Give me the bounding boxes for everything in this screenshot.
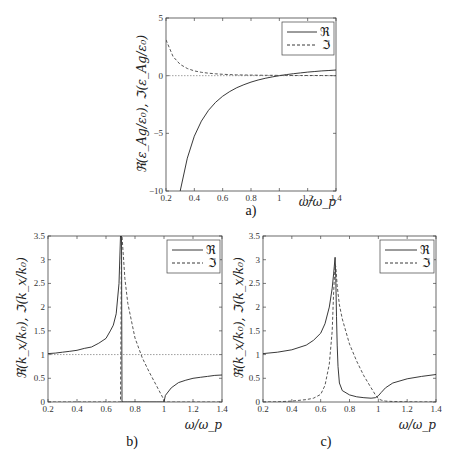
x-tick-label: 0.4 [189, 193, 201, 203]
legend-label: ℜ [420, 243, 430, 257]
x-tick-label: 1.2 [187, 404, 198, 414]
y-tick-label: 0.5 [34, 373, 46, 383]
y-tick-label: 5 [159, 13, 164, 23]
x-tick-label: 0.4 [71, 404, 83, 414]
x-tick-label: 0.6 [217, 193, 229, 203]
series-imag [263, 265, 436, 403]
x-tick-label: 1.4 [216, 404, 228, 414]
panel-a-xlabel: ω/ω_p [299, 195, 337, 209]
x-tick-label: 0.8 [245, 193, 257, 203]
y-tick-label: 2.5 [249, 278, 261, 288]
legend: ℜℑ [167, 240, 220, 273]
y-tick-label: 0 [159, 71, 164, 81]
panel-a-epsilon-plot: 0.20.40.60.811.21.4−10−505ℜℑ [149, 13, 342, 203]
panel-c-ylabel: ℜ(k_x/k₀), ℑ(k_x/k₀) [231, 257, 246, 379]
x-tick-label: 0.6 [100, 404, 112, 414]
x-tick-label: 1 [162, 404, 167, 414]
y-tick-label: 1 [41, 350, 46, 360]
panel-b-xlabel: ω/ω_p [185, 418, 223, 432]
legend-label: ℜ [206, 243, 216, 257]
panel-a-ylabel: ℜ(ε_Ag/ε₀), ℑ(ε_Ag/ε₀) [134, 35, 149, 173]
y-tick-label: −10 [149, 186, 164, 196]
x-tick-label: 0.8 [344, 404, 356, 414]
legend-label: ℑ [422, 256, 430, 270]
y-tick-label: −5 [153, 128, 163, 138]
x-tick-label: 1 [376, 404, 381, 414]
series-real [180, 70, 336, 191]
panel-b-caption: b) [126, 434, 138, 450]
x-tick-label: 1.2 [402, 404, 413, 414]
legend-label: ℑ [208, 256, 216, 270]
y-tick-label: 3 [256, 255, 261, 265]
panel-a-caption: a) [246, 203, 257, 219]
y-tick-label: 1.5 [34, 326, 46, 336]
y-tick-label: 0 [41, 397, 46, 407]
y-tick-label: 2 [256, 302, 261, 312]
legend: ℜℑ [282, 22, 334, 55]
series-real [263, 257, 436, 398]
y-tick-label: 1.5 [249, 326, 261, 336]
x-tick-label: 1 [277, 193, 282, 203]
x-tick-label: 1.4 [430, 404, 442, 414]
y-tick-label: 3.5 [249, 231, 261, 241]
x-tick-label: 0.8 [129, 404, 141, 414]
y-tick-label: 3 [41, 255, 46, 265]
y-tick-label: 0 [256, 397, 261, 407]
x-tick-label: 0.4 [286, 404, 298, 414]
y-tick-label: 2 [41, 302, 46, 312]
panel-b-ylabel: ℜ(k_x/k₀), ℑ(k_x/k₀) [14, 257, 29, 379]
panel-c-caption: c) [321, 434, 332, 450]
legend: ℜℑ [380, 240, 434, 273]
x-tick-label: 0.6 [315, 404, 327, 414]
legend-label: ℜ [320, 25, 330, 39]
figure: 0.20.40.60.811.21.4−10−505ℜℑ a) ω/ω_p ℜ(… [0, 0, 461, 462]
legend-label: ℑ [322, 38, 330, 52]
panel-b-kx-lossless-plot: 0.20.40.60.811.21.400.511.522.533.5ℜℑ [34, 231, 228, 414]
y-tick-label: 1 [256, 350, 261, 360]
y-tick-label: 3.5 [34, 231, 46, 241]
panel-c-kx-lossy-plot: 0.20.40.60.811.21.400.511.522.533.5ℜℑ [249, 231, 442, 414]
panel-c-xlabel: ω/ω_p [399, 418, 437, 432]
y-tick-label: 2.5 [34, 278, 46, 288]
y-tick-label: 0.5 [249, 373, 261, 383]
